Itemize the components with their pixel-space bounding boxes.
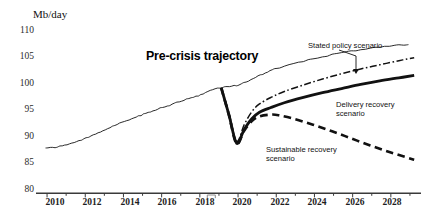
x-tick-2028: 2028 — [383, 197, 402, 207]
y-tick-80: 80 — [8, 185, 34, 194]
annotation-sustainable-line1: Sustainable recovery — [266, 145, 337, 154]
x-tick-2014: 2014 — [121, 197, 140, 207]
annotation-delivery-recovery-scenario: Delivery recovery scenario — [336, 100, 395, 118]
x-tick-2010: 2010 — [46, 197, 65, 207]
chart-container: Mb/day 110 105 100 95 90 85 80 2010 2012… — [0, 0, 426, 223]
annotation-pre-crisis-trajectory: Pre-crisis trajectory — [146, 52, 258, 61]
y-tick-100: 100 — [8, 79, 34, 88]
annotation-delivery-line1: Delivery recovery — [336, 100, 395, 109]
x-tick-2024: 2024 — [308, 197, 327, 207]
x-tick-2012: 2012 — [83, 197, 102, 207]
x-tick-2022: 2022 — [271, 197, 290, 207]
y-tick-95: 95 — [8, 105, 34, 114]
annotation-sustainable-recovery-scenario: Sustainable recovery scenario — [266, 145, 337, 163]
annotation-delivery-line2: scenario — [336, 109, 395, 118]
x-tick-2020: 2020 — [233, 197, 252, 207]
x-tick-2026: 2026 — [346, 197, 365, 207]
y-tick-105: 105 — [8, 52, 34, 61]
annotation-sustainable-line2: scenario — [266, 154, 337, 163]
y-tick-110: 110 — [8, 26, 34, 35]
x-tick-2018: 2018 — [196, 197, 215, 207]
x-axis-tick-labels: 2010 2012 2014 2016 2018 2020 2022 2024 … — [0, 197, 426, 219]
y-axis-tick-labels: 110 105 100 95 90 85 80 — [8, 0, 34, 223]
y-tick-85: 85 — [8, 158, 34, 167]
annotation-stated-policy-scenario: Stated policy scenario — [308, 41, 382, 50]
x-tick-2016: 2016 — [158, 197, 177, 207]
y-tick-90: 90 — [8, 132, 34, 141]
